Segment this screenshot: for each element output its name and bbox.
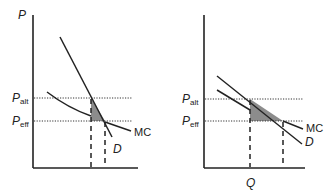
right-demand-curve (217, 76, 302, 144)
right-deadweight-loss-area (250, 99, 283, 121)
diagram-canvas: P Palt Peff MC D Palt Peff (0, 0, 333, 193)
left-mc-curve (47, 92, 91, 116)
right-mc-label: MC (306, 122, 323, 134)
left-p-eff-label: Peff (12, 114, 30, 129)
left-d-label: D (113, 142, 122, 156)
left-demand-curve (60, 37, 112, 137)
right-panel: Palt Peff MC D Q (182, 15, 323, 190)
right-mc-curve-lower (283, 121, 303, 129)
left-panel: P Palt Peff MC D (12, 8, 151, 168)
left-y-axis-label: P (18, 8, 26, 22)
right-p-eff-label: Peff (182, 114, 200, 129)
right-d-label: D (305, 135, 314, 149)
right-x-axis-label: Q (246, 176, 255, 190)
left-p-alt-label: Palt (12, 91, 29, 106)
right-mc-curve (217, 90, 250, 110)
left-mc-label: MC (134, 126, 151, 138)
right-p-alt-label: Palt (182, 92, 199, 107)
